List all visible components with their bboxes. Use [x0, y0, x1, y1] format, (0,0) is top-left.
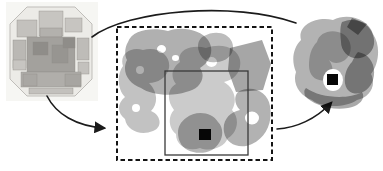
chip-block	[23, 74, 37, 86]
zoom-sequence-diagram	[0, 0, 383, 171]
zoomed-cell-panel	[293, 17, 378, 109]
chip-block	[40, 28, 62, 37]
chip-block	[13, 60, 26, 70]
region-cell-marker	[199, 129, 211, 140]
chip-block	[33, 42, 48, 55]
chip-block	[65, 18, 82, 32]
chip-block	[63, 38, 75, 48]
chip-block	[29, 88, 73, 94]
chip-die-photo	[6, 2, 98, 101]
chip-block	[77, 38, 89, 60]
cell-marker	[327, 74, 338, 85]
region-to-cell-arrow	[277, 103, 331, 129]
diagram-svg	[0, 0, 383, 171]
chip-block	[65, 74, 81, 86]
chip-block	[17, 20, 37, 37]
